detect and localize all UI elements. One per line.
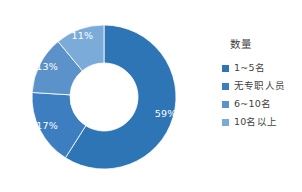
legend-swatch-icon-over-10 (222, 119, 229, 126)
donut-chart-figure: 59% 17% 13% 11% 数量 1~5名 无专职人员 6~10名 10名以… (0, 0, 302, 192)
legend-item-6-10[interactable]: 6~10名 (222, 96, 300, 112)
legend-label-no-dedicated-staff: 无专职人员 (234, 81, 285, 91)
legend-title: 数量 (230, 36, 300, 51)
donut-slice-group (32, 25, 176, 169)
slice-label-4: 11% (71, 30, 93, 41)
slice-label-1: 59% (155, 108, 177, 119)
legend-swatch-icon-1-5 (222, 65, 229, 72)
donut-chart-plot-area: 59% 17% 13% 11% (18, 14, 190, 180)
legend-label-6-10: 6~10名 (234, 99, 271, 109)
donut-chart-svg: 59% 17% 13% 11% (18, 14, 190, 180)
legend-item-1-5[interactable]: 1~5名 (222, 60, 300, 76)
slice-label-2: 17% (36, 120, 58, 131)
legend-swatch-icon-6-10 (222, 101, 229, 108)
chart-legend: 数量 1~5名 无专职人员 6~10名 10名以上 (222, 36, 300, 132)
legend-label-over-10: 10名以上 (234, 117, 277, 127)
slice-label-3: 13% (36, 61, 58, 72)
legend-item-no-dedicated-staff[interactable]: 无专职人员 (222, 78, 300, 94)
legend-item-over-10[interactable]: 10名以上 (222, 114, 300, 130)
legend-label-1-5: 1~5名 (234, 63, 265, 73)
legend-swatch-icon-no-dedicated-staff (222, 83, 229, 90)
